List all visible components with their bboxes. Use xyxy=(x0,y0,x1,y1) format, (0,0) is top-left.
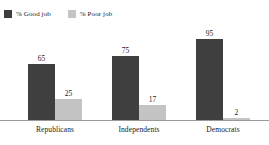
x-axis-baseline xyxy=(0,120,269,121)
legend-label-poor-job: % Poor job xyxy=(80,10,113,18)
bar-value-label: 17 xyxy=(139,95,166,104)
bar xyxy=(112,56,139,120)
chart-legend: % Good job % Poor job xyxy=(4,8,112,19)
bar xyxy=(196,39,223,120)
category-label: Republicans xyxy=(15,124,95,135)
category-label: Democrats xyxy=(183,124,263,135)
bar-chart: % Good job % Poor job 65257517952 Republ… xyxy=(0,0,269,145)
bar-value-label: 95 xyxy=(196,29,223,38)
legend-item-good-job: % Good job xyxy=(4,10,51,18)
plot-area: 65257517952 xyxy=(0,28,269,120)
bar-group: 6525 xyxy=(28,28,82,120)
bar xyxy=(55,99,82,120)
bar-value-label: 2 xyxy=(223,108,250,117)
legend-label-good-job: % Good job xyxy=(16,10,51,18)
legend-item-poor-job: % Poor job xyxy=(68,10,113,18)
category-label: Independents xyxy=(99,124,179,135)
bar xyxy=(139,105,166,120)
legend-swatch-poor-job-icon xyxy=(68,10,76,18)
bar-value-label: 65 xyxy=(28,54,55,63)
bar xyxy=(28,64,55,120)
bar-value-label: 25 xyxy=(55,89,82,98)
category-label-row: RepublicansIndependentsDemocrats xyxy=(0,124,269,138)
bar-value-label: 75 xyxy=(112,46,139,55)
bar-group: 7517 xyxy=(112,28,166,120)
bar-group: 952 xyxy=(196,28,250,120)
legend-swatch-good-job-icon xyxy=(4,10,12,18)
